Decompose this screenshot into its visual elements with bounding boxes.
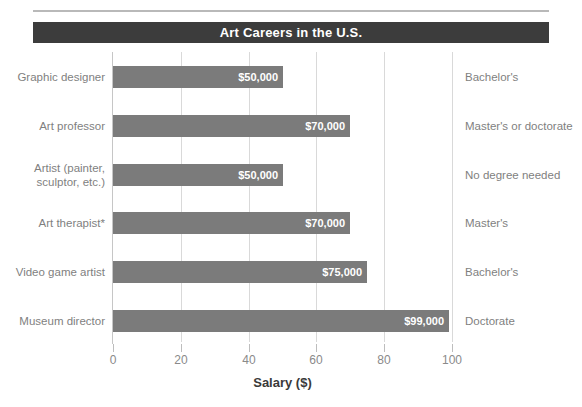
bar-row: $75,000 bbox=[113, 261, 367, 283]
category-label: Video game artist bbox=[0, 265, 105, 279]
chart-title-banner: Art Careers in the U.S. bbox=[33, 22, 549, 43]
education-label: Master's or doctorate bbox=[465, 119, 582, 133]
education-label: No degree needed bbox=[465, 168, 582, 182]
x-tick-label-40: 40 bbox=[229, 353, 269, 367]
bar-value-label: $50,000 bbox=[238, 164, 278, 186]
education-label: Bachelor's bbox=[465, 265, 582, 279]
bar-row: $50,000 bbox=[113, 164, 283, 186]
bar-row: $50,000 bbox=[113, 66, 283, 88]
x-axis-title: Salary ($) bbox=[113, 375, 452, 390]
bar-row: $99,000 bbox=[113, 310, 449, 332]
category-label: Graphic designer bbox=[0, 70, 105, 84]
x-tick-80 bbox=[384, 344, 385, 352]
x-tick-label-80: 80 bbox=[364, 353, 404, 367]
x-tick-20 bbox=[181, 344, 182, 352]
category-label-line: Artist (painter, bbox=[0, 161, 105, 175]
category-label-line: Art therapist* bbox=[0, 216, 105, 230]
gridline-40 bbox=[249, 52, 250, 342]
category-label: Art therapist* bbox=[0, 216, 105, 230]
category-label: Artist (painter,sculptor, etc.) bbox=[0, 161, 105, 189]
bar-row: $70,000 bbox=[113, 115, 350, 137]
x-tick-40 bbox=[249, 344, 250, 352]
x-tick-60 bbox=[316, 344, 317, 352]
bar[interactable] bbox=[113, 310, 449, 332]
bar-row: $70,000 bbox=[113, 212, 350, 234]
top-divider-rule bbox=[33, 10, 549, 12]
category-label-line: sculptor, etc.) bbox=[0, 175, 105, 189]
category-label-line: Video game artist bbox=[0, 265, 105, 279]
bar-value-label: $50,000 bbox=[238, 66, 278, 88]
x-tick-label-60: 60 bbox=[296, 353, 336, 367]
education-label: Bachelor's bbox=[465, 70, 582, 84]
gridline-100 bbox=[452, 52, 453, 342]
x-tick-label-20: 20 bbox=[161, 353, 201, 367]
education-label: Doctorate bbox=[465, 314, 582, 328]
gridline-20 bbox=[181, 52, 182, 342]
category-label: Art professor bbox=[0, 119, 105, 133]
gridline-60 bbox=[316, 52, 317, 342]
x-tick-label-0: 0 bbox=[93, 353, 133, 367]
bar-value-label: $70,000 bbox=[305, 115, 345, 137]
x-tick-100 bbox=[452, 344, 453, 352]
education-label: Master's bbox=[465, 216, 582, 230]
gridline-80 bbox=[384, 52, 385, 342]
chart-title: Art Careers in the U.S. bbox=[220, 26, 363, 39]
category-label-line: Graphic designer bbox=[0, 70, 105, 84]
bar-value-label: $70,000 bbox=[305, 212, 345, 234]
bar-value-label: $75,000 bbox=[322, 261, 362, 283]
category-label-line: Museum director bbox=[0, 314, 105, 328]
chart-figure: Art Careers in the U.S. Salary ($) $50,0… bbox=[0, 0, 582, 407]
plot-area bbox=[113, 52, 452, 342]
category-label-line: Art professor bbox=[0, 119, 105, 133]
x-tick-0 bbox=[113, 344, 114, 352]
x-tick-label-100: 100 bbox=[432, 353, 472, 367]
category-label: Museum director bbox=[0, 314, 105, 328]
bar-value-label: $99,000 bbox=[404, 310, 444, 332]
